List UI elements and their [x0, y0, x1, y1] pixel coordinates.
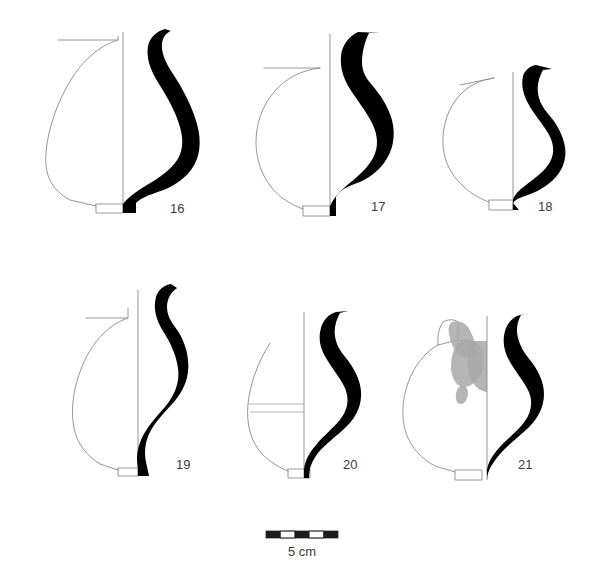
- pottery-plate: 16 17 18 19 20: [0, 0, 589, 584]
- vessel-16-label: 16: [170, 201, 184, 216]
- scale-bar-segment-3: [295, 531, 309, 538]
- vessel-17-label: 17: [371, 199, 385, 214]
- vessel-19-label: 19: [176, 457, 190, 472]
- scale-bar-segment-4: [309, 531, 323, 538]
- vessel-18-label: 18: [538, 199, 552, 214]
- vessel-21-label: 21: [518, 457, 532, 472]
- scale-bar-label: 5 cm: [288, 544, 316, 559]
- scale-bar-segment-1: [266, 531, 280, 538]
- scale-bar-segment-2: [280, 531, 294, 538]
- plate-background: [0, 0, 589, 584]
- vessel-20-label: 20: [343, 457, 357, 472]
- scale-bar-segment-5: [324, 531, 338, 538]
